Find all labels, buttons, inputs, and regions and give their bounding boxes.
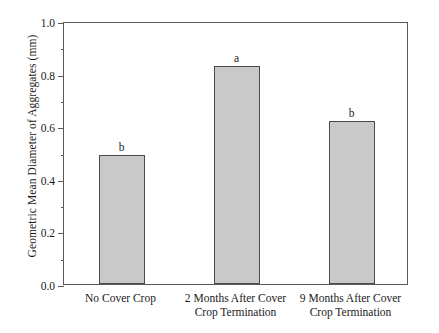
y-tick-minor: [61, 102, 65, 103]
y-tick-label: 0.4: [41, 175, 55, 187]
x-axis-label-line: Crop Termination: [281, 305, 421, 319]
bar: [214, 66, 260, 284]
y-tick-major: [58, 128, 64, 129]
y-tick-minor: [61, 155, 65, 156]
y-tick-major: [58, 286, 64, 287]
y-tick-label: 0.2: [41, 227, 55, 239]
y-tick-minor: [61, 207, 65, 208]
y-tick-major: [58, 23, 64, 24]
y-tick-major: [58, 181, 64, 182]
y-tick-label: 0.6: [41, 122, 55, 134]
y-tick-major: [58, 233, 64, 234]
bar: [329, 121, 375, 284]
x-axis-label: 9 Months After CoverCrop Termination: [281, 291, 421, 319]
y-tick-minor: [61, 49, 65, 50]
x-axis-label-line: 9 Months After Cover: [281, 291, 421, 305]
y-tick-label: 0.8: [41, 70, 55, 82]
y-tick-major: [58, 76, 64, 77]
bar-significance-letter: a: [214, 52, 260, 64]
y-tick-label: 1.0: [41, 17, 55, 29]
bar-significance-letter: b: [329, 107, 375, 119]
y-tick-minor: [61, 260, 65, 261]
bar-significance-letter: b: [99, 141, 145, 153]
bar: [99, 155, 145, 284]
plot-area: 0.00.20.40.60.81.0 bab: [63, 22, 408, 285]
bar-chart-figure: Geometric Mean Diameter of Aggregates (m…: [0, 0, 439, 333]
y-axis-title: Geometric Mean Diameter of Aggregates (m…: [26, 11, 38, 281]
